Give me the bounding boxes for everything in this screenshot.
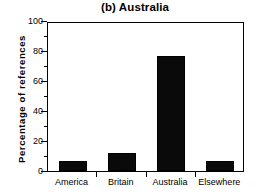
y-axis-title: Percentage of references xyxy=(11,19,25,179)
bar-australia xyxy=(157,56,185,172)
y-tick-label: 20 xyxy=(0,137,43,146)
bar-america xyxy=(59,161,87,172)
y-tick-label: 60 xyxy=(0,77,43,86)
x-tick-label-elsewhere: Elsewhere xyxy=(195,177,244,188)
plot-area xyxy=(47,22,244,172)
x-tick-label-britain: Britain xyxy=(96,177,145,188)
x-tick-label-america: America xyxy=(47,177,96,188)
bars-group xyxy=(48,23,243,171)
bar-britain xyxy=(108,153,136,171)
y-tick-label: 80 xyxy=(0,47,43,56)
chart-title: (b) Australia xyxy=(60,1,210,13)
y-tick-label: 100 xyxy=(0,17,43,26)
x-tick-label-australia: Australia xyxy=(146,177,195,188)
y-tick-label: 0 xyxy=(0,167,43,176)
y-tick-label: 40 xyxy=(0,107,43,116)
bar-elsewhere xyxy=(206,161,234,171)
chart-figure: (b) Australia Percentage of references 0… xyxy=(0,0,258,196)
